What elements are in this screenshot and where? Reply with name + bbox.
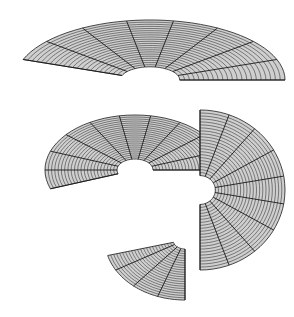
- spiral-surface-figure: [0, 0, 294, 317]
- ribbon-middle-arc: [45, 115, 225, 189]
- ribbon-right-arc: [200, 110, 285, 270]
- ribbon-bottom-tail: [108, 242, 185, 300]
- ribbon-top-arc: [23, 20, 285, 80]
